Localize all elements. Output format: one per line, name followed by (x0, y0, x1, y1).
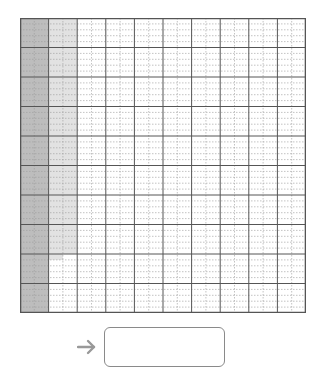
answer-input[interactable] (105, 328, 224, 366)
light-shaded-region-left (49, 18, 63, 260)
thousand-grid (20, 18, 306, 313)
right-arrow-icon (77, 337, 97, 357)
answer-box[interactable] (104, 327, 225, 367)
